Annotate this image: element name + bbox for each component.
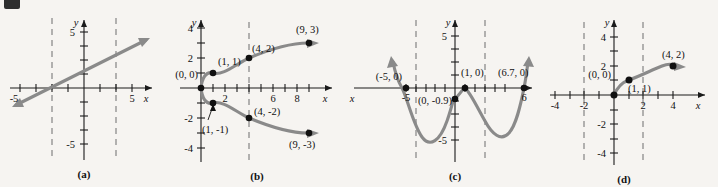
x-axis-label: x	[143, 93, 149, 104]
y-axis-label: y	[191, 17, 197, 28]
line-curve	[16, 40, 146, 105]
x-axis-arrowhead	[325, 85, 332, 91]
point-label-1-0: (1, 0)	[461, 67, 484, 79]
figure-container: -5 5 5 -5 x y (a)	[0, 0, 718, 187]
y-axis-label: y	[604, 17, 610, 28]
y-axis-arrowhead	[198, 20, 204, 27]
x-tick-label-neg5: -5	[402, 92, 411, 103]
panel-label-b: (b)	[250, 170, 264, 183]
panel-label-a: (a)	[78, 168, 91, 181]
x-tick-label-2: 2	[640, 100, 645, 111]
x-tick-label-8: 8	[294, 93, 299, 104]
curve-arrowhead-left	[387, 56, 398, 68]
point-label-9-neg3: (9, -3)	[289, 139, 316, 151]
point-marker	[306, 130, 313, 137]
x-tick-label-neg4: -4	[551, 100, 560, 111]
y-tick-label-neg2: -2	[184, 113, 193, 124]
x-tick-label-5: 5	[129, 93, 134, 104]
x-axis-label: x	[322, 93, 328, 104]
point-label-4-2: (4, 2)	[662, 49, 685, 61]
point-marker	[452, 96, 459, 103]
point-label-1-1: (1, 1)	[218, 56, 241, 68]
panel-b-plot: (0, 0) (1, 1) (4, 2) (9, 3) (1, -1) (4, …	[168, 0, 346, 187]
x-tick-label-6: 6	[270, 93, 275, 104]
point-label-origin: (0, 0)	[175, 69, 198, 81]
y-tick-label-neg5: -5	[66, 139, 75, 150]
point-label-0-neg09: (0, -0.9)	[418, 95, 453, 107]
x-tick-label-neg5: -5	[10, 93, 19, 104]
y-tick-label-neg5: -5	[438, 135, 447, 146]
y-axis-arrowhead	[611, 20, 617, 27]
point-label-9-3: (9, 3)	[296, 24, 319, 36]
panel-label-d: (d)	[617, 173, 631, 186]
panel-a: -5 5 5 -5 x y (a)	[0, 0, 168, 187]
panel-b: (0, 0) (1, 1) (4, 2) (9, 3) (1, -1) (4, …	[168, 0, 346, 187]
y-tick-label-5: 5	[442, 31, 447, 42]
y-axis-label: y	[73, 17, 79, 28]
panel-label-c: (c)	[449, 170, 462, 183]
point-marker	[210, 70, 217, 77]
curve-arrowhead-right	[523, 56, 534, 67]
x-axis-arrowhead	[698, 92, 705, 98]
point-marker	[306, 40, 313, 47]
point-label-4-2: (4, 2)	[252, 43, 275, 55]
point-marker	[611, 92, 618, 99]
point-label-4-neg2: (4, -2)	[254, 106, 281, 118]
point-marker	[246, 55, 253, 62]
point-marker	[198, 85, 205, 92]
x-tick-label-4: 4	[670, 100, 676, 111]
point-marker	[521, 85, 528, 92]
y-tick-label-2: 2	[601, 61, 606, 72]
x-tick-label-neg2: -2	[580, 100, 589, 111]
y-tick-label-neg2: -2	[597, 119, 606, 130]
point-marker	[670, 63, 677, 70]
point-label-1-neg1: (1, -1)	[202, 124, 229, 136]
y-axis-label: y	[445, 17, 451, 28]
x-tick-label-6: 6	[521, 92, 526, 103]
panel-c: (-5, 0) (0, -0.9) (1, 0) (6.7, 0) -5 6 5…	[346, 0, 540, 187]
x-axis-label: x	[349, 93, 355, 104]
y-axis-arrowhead	[452, 20, 458, 27]
y-tick-label-5: 5	[70, 27, 75, 38]
point-label-neg5-0: (-5, 0)	[376, 71, 403, 83]
x-axis-arrowhead	[145, 85, 152, 91]
y-axis-arrowhead	[81, 20, 87, 27]
x-axis-label: x	[695, 100, 701, 111]
panel-d-plot: (0, 0) (1, 1) (4, 2) -4 -2 2 4 4 2 -2 -4…	[540, 0, 718, 187]
y-tick-label-neg4: -4	[597, 148, 606, 159]
point-label-67-0: (6.7, 0)	[498, 67, 529, 79]
panel-a-plot: -5 5 5 -5 x y (a)	[0, 0, 168, 187]
panel-d: (0, 0) (1, 1) (4, 2) -4 -2 2 4 4 2 -2 -4…	[540, 0, 718, 187]
point-label-1-1: (1, 1)	[628, 83, 651, 95]
point-marker	[403, 85, 410, 92]
panel-c-plot: (-5, 0) (0, -0.9) (1, 0) (6.7, 0) -5 6 5…	[346, 0, 540, 187]
point-marker	[462, 85, 469, 92]
y-tick-label-neg4: -4	[184, 143, 193, 154]
point-marker	[246, 115, 253, 122]
x-tick-label-2: 2	[222, 93, 227, 104]
y-tick-label-2: 2	[188, 53, 193, 64]
y-tick-label-4: 4	[601, 32, 607, 43]
